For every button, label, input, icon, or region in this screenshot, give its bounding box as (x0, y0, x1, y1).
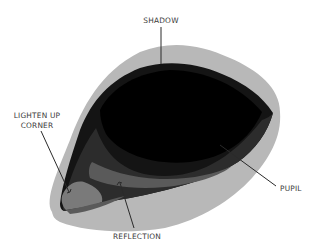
label-shadow: SHADOW (143, 16, 179, 25)
label-lighten-up-corner-line1: LIGHTEN UP (14, 111, 61, 120)
label-lighten-up-corner-line2: CORNER (21, 121, 54, 130)
label-reflection: REFLECTION (113, 232, 161, 241)
eye-diagram: SHADOW LIGHTEN UP CORNER PUPIL REFLECTIO… (0, 0, 317, 250)
label-pupil: PUPIL (280, 184, 302, 193)
